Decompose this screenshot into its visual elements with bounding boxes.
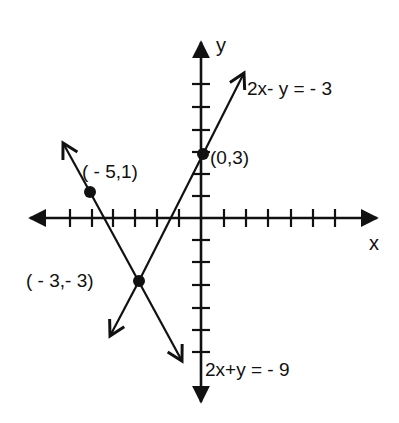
point-neg3-neg3-label: ( - 3,- 3)	[26, 270, 94, 291]
point-0-3-label: (0,3)	[210, 147, 249, 168]
line1-equation-label: 2x- y = - 3	[247, 78, 332, 99]
line-2x-minus-y-eq-neg3	[110, 73, 244, 336]
point-0-3	[197, 148, 209, 160]
coordinate-plane: y x 2x- y = - 3 2x+y = - 9 (0,3) ( - 5,1…	[0, 0, 399, 423]
point-neg5-1	[84, 186, 96, 198]
line2-equation-label: 2x+y = - 9	[205, 359, 290, 380]
y-axis	[192, 42, 210, 402]
point-neg5-1-label: ( - 5,1)	[82, 161, 138, 182]
y-axis-label: y	[216, 34, 226, 56]
point-neg3-neg3	[133, 275, 145, 287]
x-axis	[30, 209, 377, 227]
x-axis-label: x	[369, 232, 379, 254]
